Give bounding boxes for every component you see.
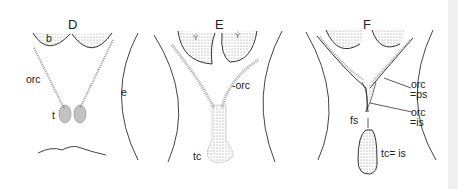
label-orc: orc [26, 74, 41, 85]
label-tc-is: tc= is [381, 148, 406, 159]
panel-label-d: D [68, 18, 77, 31]
t-blob-left [59, 105, 71, 123]
panel-f [306, 30, 436, 174]
outer-curve-right [263, 31, 282, 162]
orc-right-strand [80, 40, 113, 108]
right-edge-strip [448, 0, 458, 189]
label-b: b [46, 33, 52, 44]
label-orc: -orc [232, 80, 250, 91]
wavy-line [38, 146, 106, 155]
outer-curve-left [154, 35, 179, 162]
orc-ps-strands [317, 36, 413, 112]
label-orc-is-bottom: =is [410, 117, 424, 128]
leader-orc-ps [384, 78, 411, 88]
t-blob-right [74, 105, 86, 123]
panel-label-f: F [363, 18, 371, 31]
outer-curve-left [306, 32, 329, 160]
label-tc: tc [193, 151, 201, 162]
panel-label-e: E [215, 18, 224, 31]
orc-strands [172, 45, 258, 108]
label-fs: fs [350, 115, 358, 126]
label-t: t [52, 110, 55, 121]
svg-text:Ý: Ý [235, 31, 241, 40]
panel-e: Ý Ý [154, 31, 282, 163]
svg-text:Ý: Ý [193, 33, 199, 42]
tc-is-pod [358, 130, 377, 174]
label-orc-ps-bottom: =ps [410, 89, 427, 100]
leader-orc-is [370, 103, 412, 112]
tc-stalk [207, 105, 233, 163]
label-e: e [121, 87, 127, 98]
orc-is-stalk [362, 82, 376, 112]
